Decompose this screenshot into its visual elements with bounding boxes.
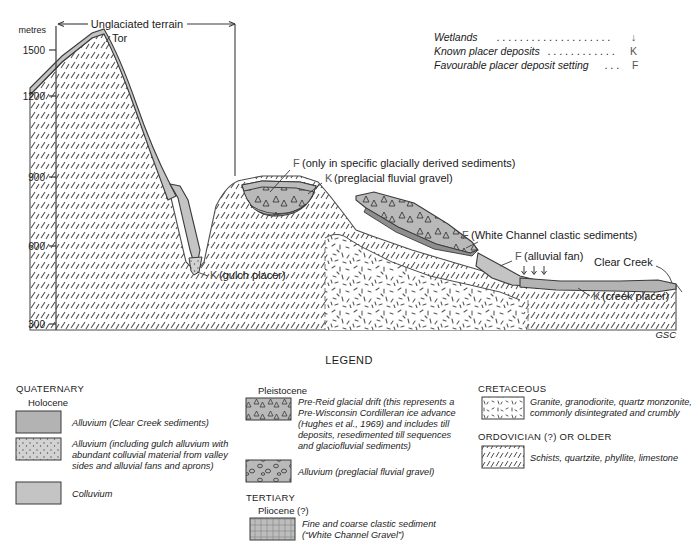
annotation-f-glacially-derived-code: F xyxy=(293,157,300,169)
legend-era-cretaceous: CRETACEOUS xyxy=(478,383,546,394)
annotation-k-gulch-placer-text: (gulch placer) xyxy=(219,269,286,281)
annotation-k-preglacial-gravel-code: K xyxy=(325,172,333,184)
legend-text-pre-reid-line2: Pre-Wisconsin Cordilleran ice advance xyxy=(298,408,456,418)
legend-text-alluvium-preglacial-line1: Alluvium (preglacial fluvial gravel) xyxy=(297,467,434,477)
legend-text-granite-line1: Granite, granodiorite, quartz monzonite, xyxy=(530,397,692,407)
unglaciated-terrain-label: Unglaciated terrain xyxy=(91,18,183,30)
axis-tick-300: 300 xyxy=(28,319,45,330)
key-known-placer-dots: . . . . . . . . . . . . xyxy=(548,45,615,57)
key-wetlands-dots: . . . . . . . . . . . . . . . . . . . . xyxy=(497,31,611,43)
legend-block: LEGEND QUATERNARY Holocene Alluvium (Cle… xyxy=(16,354,692,540)
gsc-credit: GSC xyxy=(655,329,676,340)
legend-text-alluvium-gulch-line1: Alluvium (including gulch alluvium with xyxy=(71,439,228,449)
legend-column-pleistocene-tertiary: Pleistocene Pre-Reid glacial drift (this… xyxy=(246,385,456,540)
legend-text-alluvium-gulch-line3: sides and alluvial fans and aprons) xyxy=(72,461,213,471)
annotation-k-preglacial-gravel: K (preglacial fluvial gravel) xyxy=(308,172,453,194)
axis-tick-1500: 1500 xyxy=(23,45,46,56)
legend-swatch-alluvium-clear-creek xyxy=(16,411,61,433)
legend-swatch-colluvium xyxy=(16,482,61,504)
legend-title: LEGEND xyxy=(325,354,373,366)
legend-item-alluvium-preglacial: Alluvium (preglacial fluvial gravel) xyxy=(246,460,434,482)
legend-item-colluvium: Colluvium xyxy=(16,482,113,504)
legend-item-white-channel-gravel: Fine and coarse clastic sediment (“White… xyxy=(250,518,436,540)
legend-item-granite: Granite, granodiorite, quartz monzonite,… xyxy=(482,397,692,419)
key-known-placer-text: Known placer deposits xyxy=(434,45,540,57)
annotation-f-white-channel-text: (White Channel clastic sediments) xyxy=(471,229,637,241)
legend-swatch-schist xyxy=(482,446,524,468)
key-known-placer-code: K xyxy=(630,45,637,57)
axis-tick-1200: 1200 xyxy=(23,91,46,102)
legend-item-alluvium-gulch: Alluvium (including gulch alluvium with … xyxy=(16,438,229,471)
clear-creek-annotation: Clear Creek xyxy=(594,256,672,283)
legend-swatch-alluvium-gulch xyxy=(16,438,61,460)
annotation-k-gulch-placer-code: K xyxy=(210,269,218,281)
key-favourable-text: Favourable placer deposit setting xyxy=(434,59,589,71)
legend-epoch-holocene: Holocene xyxy=(28,397,68,408)
axis-tick-900: 900 xyxy=(28,172,45,183)
legend-text-alluvium-gulch-line2: abundant colluvial material from valley xyxy=(72,450,229,460)
legend-era-quaternary: QUATERNARY xyxy=(16,383,84,394)
clear-creek-label: Clear Creek xyxy=(594,256,653,268)
legend-text-granite-line2: commonly disintegrated and crumbly xyxy=(530,408,681,418)
legend-text-pre-reid-line1: Pre-Reid glacial drift (this represents … xyxy=(298,397,454,407)
annotation-f-white-channel: F (White Channel clastic sediments) xyxy=(462,229,637,248)
legend-era-ordovician: ORDOVICIAN (?) OR OLDER xyxy=(478,431,612,442)
legend-text-colluvium-line1: Colluvium xyxy=(72,489,113,499)
legend-text-schist-line1: Schists, quartzite, phyllite, limestone xyxy=(530,453,678,463)
key-favourable-code: F xyxy=(632,59,638,71)
annotation-k-creek-placer-code: K xyxy=(593,290,601,302)
geologic-cross-section-figure: metres 1500 1200 900 600 300 Unglaciated… xyxy=(0,0,699,549)
cross-section-drawing: metres 1500 1200 900 600 300 Unglaciated… xyxy=(18,18,682,340)
legend-swatch-pre-reid-drift xyxy=(246,398,291,420)
legend-text-pre-reid-line5: and glaciofluvial sediments) xyxy=(298,441,411,451)
wetland-symbols xyxy=(522,266,547,275)
legend-epoch-pliocene: Pliocene (?) xyxy=(258,505,309,516)
legend-era-tertiary: TERTIARY xyxy=(246,492,295,503)
key-wetlands-text: Wetlands xyxy=(434,31,478,43)
legend-epoch-pleistocene: Pleistocene xyxy=(258,385,307,396)
legend-swatch-white-channel-gravel xyxy=(250,518,295,540)
annotation-k-preglacial-gravel-text: (preglacial fluvial gravel) xyxy=(334,172,453,184)
legend-text-pre-reid-line3: (Hughes et al., 1969) and includes till xyxy=(298,419,450,429)
axis-tick-600: 600 xyxy=(28,241,45,252)
key-wetlands-code: ↓ xyxy=(631,31,636,43)
legend-item-pre-reid-drift: Pre-Reid glacial drift (this represents … xyxy=(246,397,456,451)
legend-column-cretaceous-ordovician: CRETACEOUS Granite, granodiorite, quartz… xyxy=(478,383,692,468)
annotation-f-alluvial-fan-code: F xyxy=(515,250,522,262)
annotation-k-creek-placer-text: (creek placer) xyxy=(602,290,669,302)
axis-unit-label: metres xyxy=(18,25,46,35)
legend-item-alluvium-clear-creek: Alluvium (Clear Creek sediments) xyxy=(16,411,209,433)
annotation-f-alluvial-fan: F (alluvial fan) xyxy=(500,250,583,266)
tor-label: Tor xyxy=(112,32,128,44)
legend-text-alluvium-clear-creek-line1: Alluvium (Clear Creek sediments) xyxy=(71,418,209,428)
annotation-f-alluvial-fan-text: (alluvial fan) xyxy=(524,250,583,262)
creek-right-bank xyxy=(676,284,682,292)
legend-text-white-channel-line1: Fine and coarse clastic sediment xyxy=(302,519,436,529)
legend-swatch-granite xyxy=(482,397,524,419)
annotation-f-white-channel-code: F xyxy=(462,229,469,241)
annotation-f-glacially-derived-text: (only in specific glacially derived sedi… xyxy=(302,157,515,169)
annotation-k-gulch-placer: K (gulch placer) xyxy=(197,269,286,281)
key-favourable-dots: . . . xyxy=(605,59,620,71)
legend-column-quaternary: QUATERNARY Holocene Alluvium (Clear Cree… xyxy=(16,383,229,504)
legend-text-pre-reid-line4: deposits, resedimented till sequences xyxy=(298,430,452,440)
legend-text-white-channel-line2: (“White Channel Gravel”) xyxy=(302,530,404,540)
symbol-key: Wetlands . . . . . . . . . . . . . . . .… xyxy=(434,31,638,71)
legend-item-schist: Schists, quartzite, phyllite, limestone xyxy=(482,446,678,468)
legend-swatch-alluvium-preglacial xyxy=(246,460,291,482)
